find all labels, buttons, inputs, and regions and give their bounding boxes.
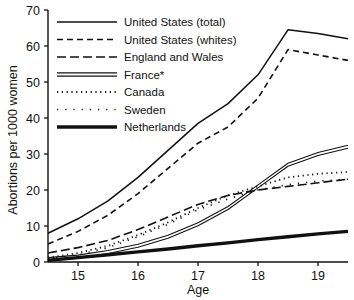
y-tick-label: 20 xyxy=(26,184,40,198)
x-tick-label: 18 xyxy=(251,269,265,283)
legend-label-0: United States (total) xyxy=(124,16,226,28)
y-axis-tick-labels: 010203040506070 xyxy=(26,4,40,270)
plot-area: 010203040506070 1516171819 United States… xyxy=(0,0,354,300)
abortion-rate-line-chart: 010203040506070 1516171819 United States… xyxy=(0,0,354,300)
legend-label-6: Netherlands xyxy=(124,121,186,133)
y-tick-label: 10 xyxy=(26,220,40,234)
axes xyxy=(48,10,348,262)
legend-label-1: United States (whites) xyxy=(124,34,237,46)
y-tick-label: 40 xyxy=(26,112,40,126)
legend-label-4: Canada xyxy=(124,86,165,98)
x-tick-label: 16 xyxy=(131,269,145,283)
series-line-2 xyxy=(48,179,348,253)
x-axis-tick-labels: 1516171819 xyxy=(71,269,325,283)
y-tick-label: 70 xyxy=(26,4,40,18)
y-tick-label: 50 xyxy=(26,76,40,90)
y-tick-label: 30 xyxy=(26,148,40,162)
x-tick-label: 15 xyxy=(71,269,85,283)
y-tick-label: 60 xyxy=(26,40,40,54)
legend-label-2: England and Wales xyxy=(124,51,224,63)
x-tick-label: 17 xyxy=(191,269,205,283)
series-line-6 xyxy=(48,231,348,260)
y-axis-title: Abortions per 1000 women xyxy=(6,65,20,214)
series-line-3 xyxy=(48,145,348,257)
data-series xyxy=(48,30,348,261)
x-tick-label: 19 xyxy=(311,269,325,283)
legend-label-5: Sweden xyxy=(124,104,166,116)
x-axis-title: Age xyxy=(187,283,209,297)
legend-label-3: France* xyxy=(124,69,165,81)
series-line-1 xyxy=(48,50,348,244)
y-tick-label: 0 xyxy=(33,256,40,270)
